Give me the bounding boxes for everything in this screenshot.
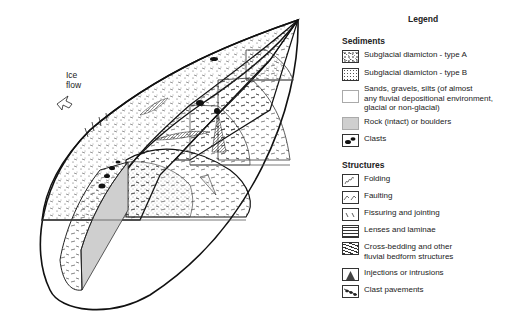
legend-item-folding: Folding (342, 174, 390, 187)
legend-label: Injections or intrusions (364, 268, 444, 278)
legend-label: Fissuring and jointing (364, 208, 440, 218)
legend-label: Lenses and laminae (364, 225, 436, 235)
legend-item-diamicton-b: Subglacial diamicton - type B (342, 68, 467, 81)
legend-label: Faulting (364, 191, 392, 201)
legend-item-injection: Injections or intrusions (342, 268, 444, 281)
legend-item-sands: Sands, gravels, silts (of almost any flu… (342, 84, 493, 113)
diamicton-b-swatch-icon (342, 68, 359, 81)
injection-icon (342, 268, 359, 281)
legend-label: Sands, gravels, silts (of almost any flu… (364, 84, 493, 113)
legend-item-diamicton-a: Subglacial diamicton - type A (342, 50, 467, 63)
ice-label-line2: flow (66, 80, 81, 90)
diamicton-a-swatch-icon (342, 50, 359, 63)
legend-label-line: glacial or non-glacial) (364, 103, 493, 113)
clast-pavement-icon (342, 285, 359, 298)
legend-label-line: any fluvial depositional environment, (364, 94, 493, 104)
faulting-icon (342, 191, 359, 204)
clasts-swatch-icon (342, 134, 359, 147)
legend-item-clasts: Clasts (342, 134, 386, 147)
folding-icon (342, 174, 359, 187)
legend-item-cross-bedding: Cross-bedding and other fluvial bedform … (342, 242, 453, 261)
legend-label: Subglacial diamicton - type B (364, 68, 467, 78)
lenses-icon (342, 225, 359, 238)
legend-label: Clasts (364, 134, 386, 144)
legend-label: Folding (364, 174, 390, 184)
structures-heading: Structures (342, 160, 385, 170)
fissuring-icon (342, 208, 359, 221)
legend-item-fissuring: Fissuring and jointing (342, 208, 440, 221)
legend-item-faulting: Faulting (342, 191, 392, 204)
legend-label: Clast pavements (364, 285, 424, 295)
legend-label-line: Sands, gravels, silts (of almost (364, 84, 493, 94)
legend-item-lenses: Lenses and laminae (342, 225, 436, 238)
legend-label-line: fluvial bedform structures (364, 252, 453, 262)
sands-swatch-icon (342, 90, 359, 103)
ice-flow-label: Ice flow (66, 70, 81, 90)
legend-title: Legend (408, 14, 438, 24)
cross-bedding-icon (342, 242, 359, 255)
legend-label: Subglacial diamicton - type A (364, 50, 467, 60)
legend-item-rock: Rock (intact) or boulders (342, 117, 451, 130)
legend-label-line: Cross-bedding and other (364, 242, 453, 252)
legend-label: Rock (intact) or boulders (364, 117, 451, 127)
ice-label-line1: Ice (66, 70, 81, 80)
rock-swatch-icon (342, 117, 359, 130)
legend-label: Cross-bedding and other fluvial bedform … (364, 242, 453, 261)
ice-flow-arrow-icon (57, 96, 72, 110)
legend-item-clast-pavement: Clast pavements (342, 285, 424, 298)
sediments-heading: Sediments (342, 36, 385, 46)
